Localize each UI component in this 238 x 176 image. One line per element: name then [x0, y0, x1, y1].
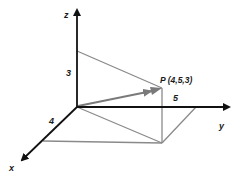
x-length-label: 4 — [48, 116, 54, 126]
axes — [22, 10, 229, 160]
guide-z3-to-p — [77, 51, 162, 88]
guide-x4-parallel-y — [43, 141, 162, 143]
y-axis-label: y — [218, 121, 225, 131]
y-length-label: 5 — [173, 93, 179, 103]
position-vector — [78, 91, 152, 106]
guide-origin-to-floor — [77, 107, 162, 143]
vector-arrowhead-double — [150, 87, 162, 95]
point-p-label: P (4,5,3) — [160, 75, 192, 85]
z-length-label: 3 — [66, 68, 71, 78]
coordinate-diagram: z y x 3 5 4 P (4,5,3) — [0, 0, 238, 176]
x-axis — [22, 107, 77, 160]
x-axis-label: x — [8, 163, 15, 173]
z-axis-label: z — [63, 10, 69, 20]
guide-y5-to-floor — [162, 107, 196, 143]
